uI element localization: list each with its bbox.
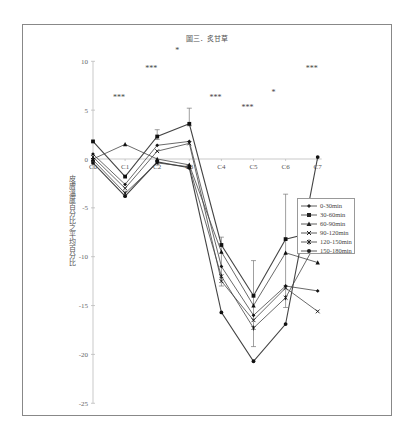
square-marker-icon [301,212,317,218]
significance-marker: * [272,88,276,97]
x-marker-icon [301,230,317,236]
x-tick-label: C1 [121,163,130,171]
y-tick-label: -25 [79,400,89,408]
significance-marker: * [175,46,179,55]
legend-item: 30-60min [301,210,354,219]
significance-marker: *** [113,93,125,102]
significance-marker: *** [209,93,221,102]
series-line [93,157,318,361]
star-marker-icon [301,239,317,245]
legend-item: 60-90min [301,219,354,228]
triangle-marker-icon [301,221,317,227]
legend-item: 90-120min [301,228,354,237]
significance-marker: *** [145,64,157,73]
y-tick-label: -20 [79,351,89,359]
x-tick-label: C4 [217,163,226,171]
circle-marker-icon [301,248,317,254]
y-tick-label: 5 [85,107,89,115]
y-tick-label: -5 [82,204,88,212]
legend-item: 120-150min [301,237,354,246]
diamond-marker-icon [301,203,317,209]
legend: 0-30min 30-60min 60-90min 90-120min 120-… [297,198,355,254]
series-line [93,124,318,296]
y-tick-label: -15 [79,302,89,310]
significance-marker: *** [242,103,254,112]
significance-marker: *** [306,64,318,73]
y-tick-label: -10 [79,253,89,261]
x-tick-label: C6 [282,163,291,171]
legend-item: 150-180min [301,246,354,255]
y-tick-label: 0 [85,156,89,164]
x-tick-label: C5 [249,163,258,171]
y-tick-label: 10 [81,58,89,66]
legend-item: 0-30min [301,201,354,210]
